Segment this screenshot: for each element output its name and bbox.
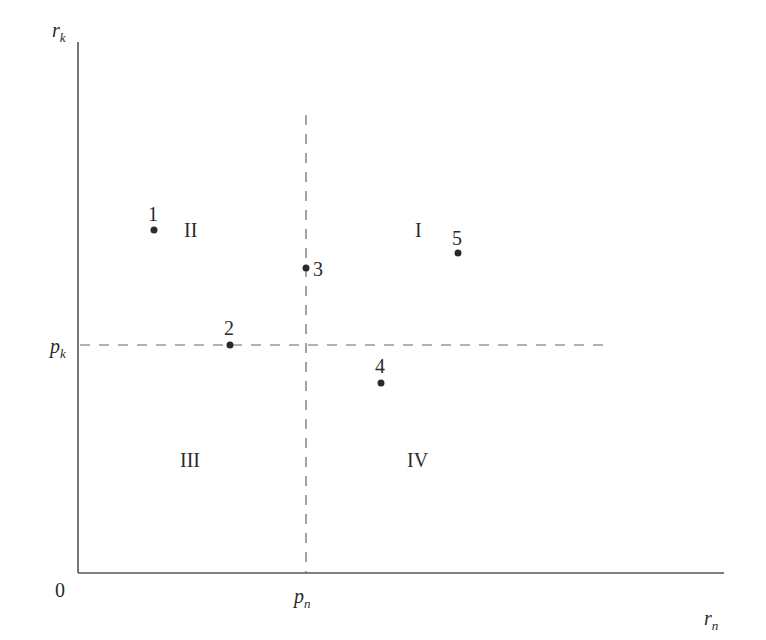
x-tick-label-pn: pn	[294, 586, 311, 606]
point-label-4: 4	[375, 356, 385, 376]
point-label-5: 5	[452, 228, 462, 248]
point-5	[455, 250, 462, 257]
point-4	[378, 380, 385, 387]
point-label-2: 2	[224, 318, 234, 338]
quadrant-label-ii: II	[184, 220, 197, 240]
quadrant-label-iii: III	[180, 450, 200, 470]
point-label-1: 1	[148, 204, 158, 224]
quadrant-label-iv: IV	[407, 450, 428, 470]
y-tick-label-pk: pk	[50, 336, 66, 356]
y-axis-label: rk	[52, 20, 66, 40]
x-axis-label: rn	[704, 608, 718, 628]
point-1	[151, 227, 158, 234]
quadrant-label-i: I	[415, 220, 422, 240]
point-2	[227, 342, 234, 349]
origin-label: 0	[55, 580, 65, 600]
point-label-3: 3	[313, 259, 323, 279]
point-3	[303, 265, 310, 272]
diagram-canvas	[0, 0, 766, 640]
